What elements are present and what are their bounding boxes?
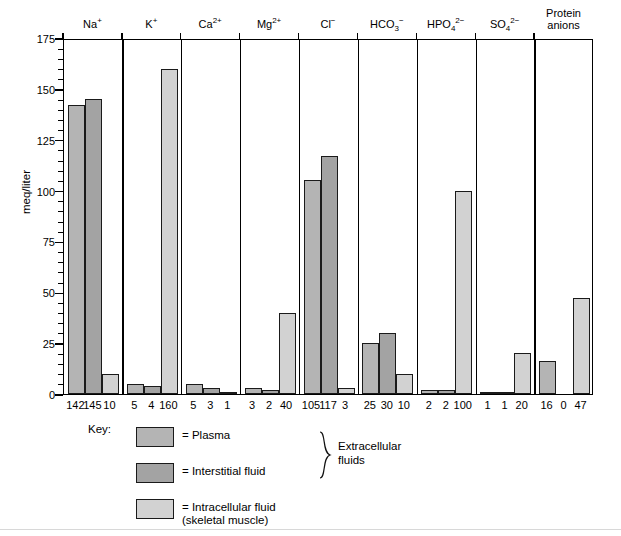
group-label-ca2: Ca2+ [181,18,240,30]
y-tick-label: 75 [43,237,55,248]
group-separator [417,40,418,394]
y-tick-major [55,242,63,243]
y-tick-label: 25 [43,339,55,350]
group-label-k: K+ [122,18,181,30]
group-separator [358,40,359,394]
y-tick-label: 100 [37,186,55,197]
y-tick-major [55,140,63,141]
key-row: = Intracellular fluid (skeletal muscle) [136,499,366,525]
bar-ca2-plasma [186,384,203,394]
bar-hpo42-intracellular [455,191,472,394]
y-tick-major [55,394,63,395]
y-tick-major [55,343,63,344]
group-separator [476,40,477,394]
extracellular-brace [318,431,332,479]
group-separator [122,40,123,394]
bar-mg2-intracellular [279,313,296,394]
y-tick-major [55,89,63,90]
bar-k-intracellular [161,69,178,394]
group-separator [181,40,182,394]
bar-so42-plasma [480,392,497,394]
key-label: = Plasma [182,429,230,442]
bar-na-interstitial [85,99,102,394]
key-swatch-intracellular [136,499,174,519]
bar-so42-interstitial [497,392,514,394]
group-label-so42: SO42− [475,18,534,30]
group-label-proteinanions: Proteinanions [534,7,593,31]
bottom-divider [0,529,621,530]
y-tick-label: 175 [37,34,55,45]
y-tick-major [55,191,63,192]
bar-na-plasma [68,105,85,394]
key-title: Key: [88,423,111,435]
bar-k-plasma [127,384,144,394]
y-tick-label: 50 [43,288,55,299]
group-label-mg2: Mg2+ [240,18,299,30]
group-separator [299,40,300,394]
value-label: 47 [566,399,595,411]
bar-proteinanions-plasma [539,361,556,394]
group-separator [534,40,535,394]
key-label: = Intracellular fluid (skeletal muscle) [182,501,276,527]
y-tick-major [55,293,63,294]
bar-cl-plasma [304,180,321,394]
bar-mg2-interstitial [262,390,279,394]
bar-hco3-intracellular [396,374,413,394]
bar-cl-interstitial [321,156,338,394]
bar-proteinanions-intracellular [573,298,590,394]
bar-mg2-plasma [245,388,262,394]
plot-area [63,39,593,395]
group-label-na: Na+ [63,18,122,30]
bar-so42-intracellular [514,353,531,394]
y-axis-tick-labels: 0255075100125150175 [22,0,55,536]
ion-concentration-bar-chart: meq/liter 0255075100125150175 Na+K+Ca2+M… [0,0,621,536]
chart-key: Key: = Plasma= Interstitial fluid= Intra… [88,421,518,521]
bar-k-interstitial [144,386,161,394]
group-separator [240,40,241,394]
y-tick-label: 125 [37,135,55,146]
key-swatch-interstitial [136,463,174,483]
key-label: = Interstitial fluid [182,465,265,478]
group-label-hco3: HCO3− [357,18,416,30]
y-tick-label: 150 [37,84,55,95]
bar-ca2-intracellular [220,392,237,394]
bar-hpo42-interstitial [438,390,455,394]
bar-hco3-interstitial [379,333,396,394]
bar-na-intracellular [102,374,119,394]
key-swatch-plasma [136,427,174,447]
bar-hpo42-plasma [421,390,438,394]
extracellular-fluids-label: Extracellular fluids [338,439,401,467]
bar-ca2-interstitial [203,388,220,394]
group-label-hpo42: HPO42− [416,18,475,30]
bar-cl-intracellular [338,388,355,394]
group-label-cl: Cl− [299,18,358,30]
bar-hco3-plasma [362,343,379,394]
